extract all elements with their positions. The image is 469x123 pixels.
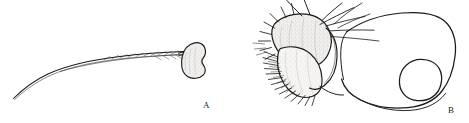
head-capsule-outline <box>341 13 456 111</box>
panel-a-antenna <box>0 0 234 123</box>
panel-label-b: B <box>448 106 454 115</box>
panel-b-head-palp <box>234 0 469 123</box>
figure-root: A B <box>0 0 469 123</box>
eye-foramen-circle <box>399 59 441 100</box>
antennal-shaft <box>14 52 185 100</box>
antennal-hairs <box>104 51 182 60</box>
antennal-club <box>182 43 206 79</box>
panel-label-a: A <box>203 101 210 110</box>
